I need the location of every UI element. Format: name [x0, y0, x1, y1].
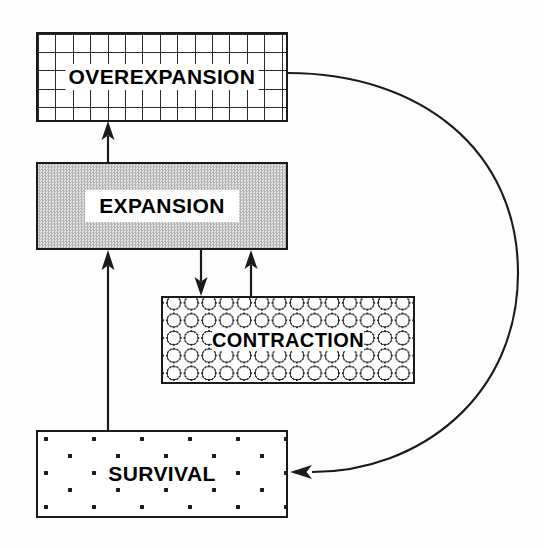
node-overexpansion[interactable]: OVEREXPANSION [36, 32, 288, 122]
arrow-contraction-to-expansion [245, 250, 258, 296]
arrow-survival-to-expansion [102, 250, 115, 430]
node-overexpansion-label: OVEREXPANSION [66, 64, 259, 90]
diagram-canvas: OVEREXPANSION EXPANSION CONTRACTION SURV… [0, 0, 544, 548]
arrow-expansion-to-contraction [195, 250, 208, 296]
node-contraction-label: CONTRACTION [212, 329, 364, 352]
node-contraction[interactable]: CONTRACTION [161, 296, 415, 384]
node-expansion-label: EXPANSION [85, 190, 239, 222]
arrow-overexpansion-to-survival [288, 73, 518, 479]
arrow-expansion-to-overexpansion [102, 121, 115, 162]
node-survival-label: SURVIVAL [108, 462, 215, 486]
node-expansion[interactable]: EXPANSION [36, 162, 288, 250]
node-survival[interactable]: SURVIVAL [36, 430, 288, 518]
